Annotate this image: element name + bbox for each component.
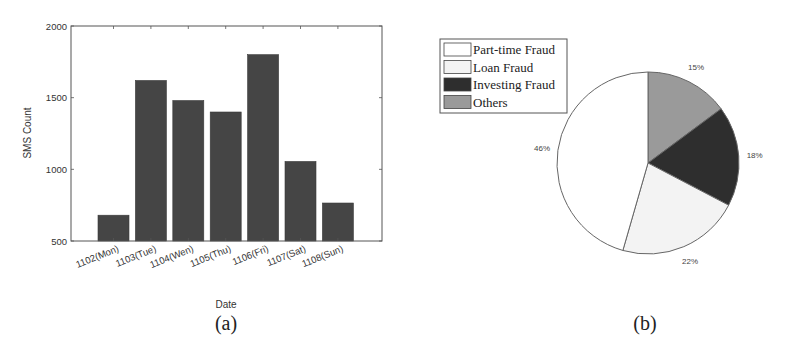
x-tick-label: 1107(Sat) (265, 243, 307, 269)
bar-chart: 500100015002000 1102(Mon)1103(Tue)1104(W… (22, 21, 382, 336)
figure: 500100015002000 1102(Mon)1103(Tue)1104(W… (0, 0, 785, 354)
bar (98, 215, 129, 241)
bar (210, 112, 241, 241)
bar (248, 55, 279, 241)
y-axis-label: SMS Count (22, 107, 33, 158)
y-tick-label: 2000 (46, 21, 67, 32)
bar (173, 101, 204, 241)
legend-label: Loan Fraud (473, 60, 534, 75)
pie-value-label: 46% (534, 144, 550, 153)
legend-swatch (444, 61, 471, 74)
caption-a: (a) (215, 312, 237, 335)
x-tick-label: 1108(Sun) (300, 243, 345, 270)
y-tick-label: 1000 (46, 164, 67, 175)
x-tick-label: 1104(Wen) (148, 243, 195, 270)
pie-chart: 15%18%22%46% Part-time FraudLoan FraudIn… (440, 39, 763, 335)
y-tick-label: 500 (51, 236, 67, 247)
legend-label: Part-time Fraud (473, 42, 555, 57)
bar (322, 203, 353, 241)
caption-b: (b) (633, 312, 656, 335)
pie-value-label: 22% (682, 257, 698, 266)
x-tick-label: 1102(Mon) (74, 243, 120, 270)
legend-label: Investing Fraud (473, 77, 555, 92)
legend-swatch (444, 96, 471, 109)
legend-swatch (444, 78, 471, 91)
x-axis-label: Date (215, 299, 237, 310)
legend-label: Others (473, 95, 508, 110)
legend: Part-time FraudLoan FraudInvesting Fraud… (440, 39, 567, 113)
bar (135, 80, 166, 241)
y-tick-label: 1500 (46, 92, 67, 103)
bars (98, 55, 353, 241)
pie-value-label: 15% (688, 63, 704, 72)
x-tick-label: 1106(Fri) (231, 243, 270, 267)
x-tick-label: 1105(Thu) (188, 243, 232, 269)
legend-swatch (444, 43, 471, 56)
pie-value-label: 18% (747, 151, 763, 160)
bar (285, 161, 316, 241)
pie-slices (557, 72, 739, 254)
